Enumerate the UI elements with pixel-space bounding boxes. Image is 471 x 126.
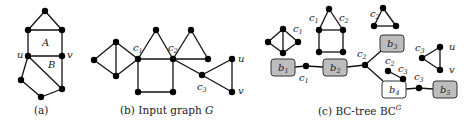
vertex-label: c3 bbox=[197, 81, 207, 94]
input-graph-vertex bbox=[170, 89, 176, 95]
block-graph-2-vertex bbox=[340, 27, 346, 33]
block-graph-label: v bbox=[449, 64, 455, 75]
block-graph-2-edge bbox=[319, 9, 329, 30]
input-graph-vertex bbox=[170, 56, 176, 62]
caption-c: (c) BC-tree BCG bbox=[318, 104, 401, 117]
graph-a-vertex bbox=[25, 53, 31, 59]
input-graph-vertex bbox=[229, 89, 235, 95]
region-label: B bbox=[47, 59, 55, 70]
block-graph-5-edge bbox=[422, 58, 440, 70]
caption-b-var: G bbox=[205, 104, 213, 116]
graph-a-vertex bbox=[59, 53, 65, 59]
cut-vertex-c2 bbox=[362, 62, 368, 68]
block-graph-label: c1 bbox=[293, 23, 303, 36]
block-graph-2-vertex bbox=[340, 49, 346, 55]
graph-a-edge bbox=[41, 89, 62, 97]
input-graph-vertex bbox=[91, 57, 97, 63]
graph-a-edge bbox=[28, 56, 62, 89]
block-graph-label: c3 bbox=[398, 63, 408, 76]
block-graph-2-vertex bbox=[316, 49, 322, 55]
block-graph-label: c3 bbox=[415, 42, 425, 55]
caption-a: (a) bbox=[34, 104, 48, 116]
graph-a-vertex bbox=[18, 77, 24, 83]
bc-tree-edge bbox=[365, 65, 383, 81]
graph-a-edge bbox=[28, 11, 45, 30]
input-graph-vertex bbox=[205, 56, 211, 62]
input-graph-edge bbox=[191, 30, 208, 59]
block-graph-label: c2 bbox=[385, 55, 395, 68]
graph-a-vertex bbox=[59, 86, 65, 92]
vertex-label: u bbox=[238, 53, 244, 64]
cut-vertex-c1 bbox=[303, 63, 309, 69]
caption-b: (b) Input graph G bbox=[120, 104, 213, 116]
graph-a-vertex bbox=[38, 94, 44, 100]
block-graph-3-vertex bbox=[380, 5, 386, 11]
input-graph-vertex bbox=[199, 72, 205, 78]
graph-a-vertex bbox=[42, 8, 48, 14]
graph-a-edge bbox=[45, 11, 62, 30]
block-graph-4-vertex bbox=[385, 68, 391, 74]
caption-c-sup: G bbox=[396, 104, 402, 112]
input-graph-edge bbox=[173, 59, 202, 75]
region-label: A bbox=[41, 37, 49, 48]
cut-vertex-label: c1 bbox=[299, 72, 309, 85]
block-graph-3-vertex bbox=[371, 23, 377, 29]
block-graph-label: u bbox=[449, 41, 455, 52]
block-graph-1-vertex bbox=[295, 39, 301, 45]
graph-a-vertex bbox=[25, 27, 31, 33]
cut-vertex-c3 bbox=[416, 85, 422, 91]
block-graph-5-vertex bbox=[419, 55, 425, 61]
input-graph-vertex bbox=[113, 73, 119, 79]
block-graph-2-vertex bbox=[326, 6, 332, 12]
block-graph-1-vertex bbox=[280, 50, 286, 56]
block-graph-5-vertex bbox=[437, 44, 443, 50]
block-graph-label: c1 bbox=[309, 12, 319, 25]
caption-c-text: (c) BC-tree BC bbox=[318, 105, 396, 117]
input-graph-vertex bbox=[113, 39, 119, 45]
cut-vertex-label: c3 bbox=[414, 71, 424, 84]
vertex-label: u bbox=[17, 49, 23, 60]
vertex-label: c1 bbox=[133, 42, 143, 55]
block-graph-label: c2 bbox=[339, 12, 349, 25]
block-graph-1-vertex bbox=[265, 39, 271, 45]
input-graph-vertex bbox=[229, 56, 235, 62]
input-graph-edge bbox=[94, 42, 116, 60]
graph-a-vertex bbox=[59, 27, 65, 33]
input-graph-vertex bbox=[188, 27, 194, 33]
caption-b-text: (b) Input graph bbox=[120, 104, 205, 116]
vertex-label: v bbox=[67, 49, 73, 60]
block-graph-3-edge bbox=[383, 8, 396, 26]
input-graph-vertex bbox=[135, 89, 141, 95]
block-graph-5-vertex bbox=[437, 67, 443, 73]
input-graph-edge bbox=[94, 60, 116, 76]
vertex-label: v bbox=[238, 85, 244, 96]
figure: ABuvc1c2c3uvb1b2b3b4b5c1c2c3c1c1c2c2c2c3… bbox=[0, 0, 471, 126]
input-graph-vertex bbox=[135, 56, 141, 62]
block-graph-2-vertex bbox=[316, 27, 322, 33]
graph-a-edge bbox=[21, 80, 41, 97]
cut-vertex-label: c2 bbox=[357, 48, 367, 61]
input-graph-vertex bbox=[153, 27, 159, 33]
input-graph-edge bbox=[116, 59, 138, 76]
block-graph-1-vertex bbox=[280, 26, 286, 32]
block-graph-3-vertex bbox=[393, 23, 399, 29]
block-graph-label: c2 bbox=[370, 8, 380, 21]
block-graph-4-vertex bbox=[400, 76, 406, 82]
